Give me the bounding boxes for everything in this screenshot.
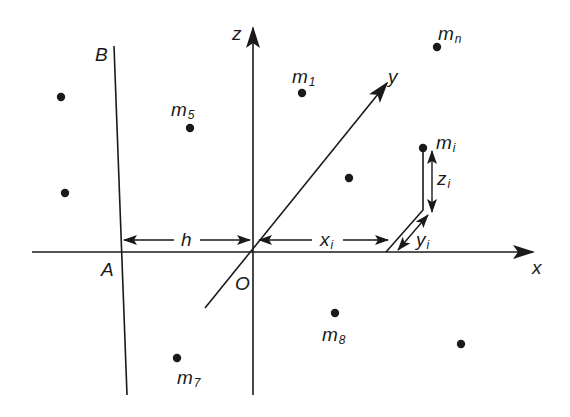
- m1-label-sub: 1: [309, 75, 316, 89]
- point-b-label: B: [95, 45, 108, 64]
- mn-label-base: m: [438, 23, 454, 44]
- yi-label-sub: i: [427, 238, 430, 252]
- xi-label: xi: [320, 230, 333, 251]
- diagram-lines: [0, 0, 570, 417]
- h-label: h: [181, 230, 192, 249]
- point-m7: [173, 354, 181, 362]
- point-mi: [419, 144, 427, 152]
- mn-label-sub: n: [455, 32, 462, 46]
- mi-label-base: m: [436, 132, 452, 153]
- xi-label-base: x: [320, 229, 330, 250]
- x-axis-label: x: [532, 258, 542, 277]
- zi-label: zi: [437, 169, 450, 190]
- z-axis-label: z: [232, 24, 242, 43]
- m8-label: m8: [322, 325, 346, 346]
- origin-label: O: [235, 274, 250, 293]
- point-m1: [298, 89, 306, 97]
- reference-line-ab: [114, 46, 127, 395]
- point-unlabeled-3: [345, 174, 353, 182]
- m7-label: m7: [177, 368, 201, 389]
- point-m8: [331, 309, 339, 317]
- m8-label-sub: 8: [339, 333, 346, 347]
- point-a-label: A: [101, 260, 114, 279]
- yi-label: yi: [416, 230, 429, 251]
- m5-label-sub: 5: [188, 108, 195, 122]
- m8-label-base: m: [322, 324, 338, 345]
- mi-label-sub: i: [453, 141, 456, 155]
- point-unlabeled-4: [457, 340, 465, 348]
- xi-label-sub: i: [331, 238, 334, 252]
- m5-label-base: m: [171, 99, 187, 120]
- point-m5: [186, 124, 194, 132]
- diagram-canvas: x y z O B A h xi yi zi m1 m5 mn mi m8 m7: [0, 0, 570, 417]
- m1-label: m1: [292, 67, 316, 88]
- point-unlabeled-2: [61, 189, 69, 197]
- mn-label: mn: [438, 24, 462, 45]
- yi-label-base: y: [416, 229, 426, 250]
- zi-label-base: z: [437, 168, 447, 189]
- mi-label: mi: [436, 133, 456, 154]
- m5-label: m5: [171, 100, 195, 121]
- y-axis: [205, 83, 387, 308]
- y-axis-label: y: [388, 67, 398, 86]
- m1-label-base: m: [292, 66, 308, 87]
- m7-label-base: m: [177, 367, 193, 388]
- point-unlabeled-1: [57, 93, 65, 101]
- m7-label-sub: 7: [194, 376, 201, 390]
- zi-label-sub: i: [448, 177, 451, 191]
